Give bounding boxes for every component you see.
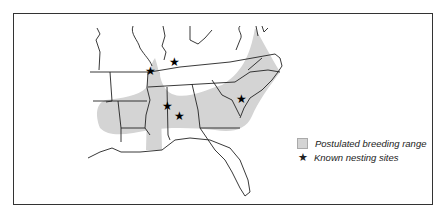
star-icon: ★ xyxy=(169,55,180,69)
legend-item-range: Postulated breeding range xyxy=(297,136,426,150)
southeast-us-map xyxy=(0,0,446,214)
mississippi-range-band xyxy=(146,72,162,150)
legend-item-nesting: ★ Known nesting sites xyxy=(297,150,426,164)
breeding-range-area xyxy=(97,28,280,134)
star-icon: ★ xyxy=(162,99,173,113)
gray-square-icon xyxy=(297,138,308,149)
star-icon: ★ xyxy=(236,92,247,106)
legend: Postulated breeding range ★ Known nestin… xyxy=(297,136,426,164)
legend-label: Postulated breeding range xyxy=(315,138,426,149)
star-icon: ★ xyxy=(174,109,185,123)
star-icon: ★ xyxy=(297,152,308,162)
star-icon: ★ xyxy=(145,64,156,78)
legend-label: Known nesting sites xyxy=(314,152,399,163)
